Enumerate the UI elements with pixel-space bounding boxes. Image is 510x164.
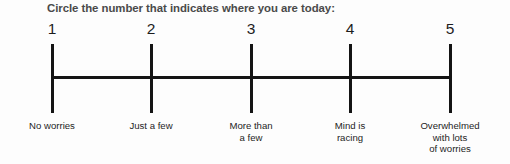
- scale-tick-5[interactable]: [449, 44, 452, 113]
- scale-number-2[interactable]: 2: [131, 19, 171, 38]
- scale-number-1[interactable]: 1: [32, 19, 72, 38]
- scale-number-5[interactable]: 5: [430, 19, 470, 38]
- scale-tick-2[interactable]: [150, 44, 153, 113]
- prompt-heading: Circle the number that indicates where y…: [47, 0, 335, 16]
- worksheet-scale-figure: Circle the number that indicates where y…: [0, 0, 510, 164]
- anchor-label-line: of worries: [391, 143, 509, 155]
- scale-number-3[interactable]: 3: [231, 19, 271, 38]
- scale-tick-4[interactable]: [349, 44, 352, 113]
- anchor-label-line: Overwhelmed: [391, 120, 509, 132]
- scale-anchor-label-5: Overwhelmedwith lotsof worries: [391, 120, 509, 155]
- scale-number-4[interactable]: 4: [330, 19, 370, 38]
- scale-tick-1[interactable]: [51, 44, 54, 113]
- scale-tick-3[interactable]: [250, 44, 253, 113]
- anchor-label-line: with lots: [391, 132, 509, 144]
